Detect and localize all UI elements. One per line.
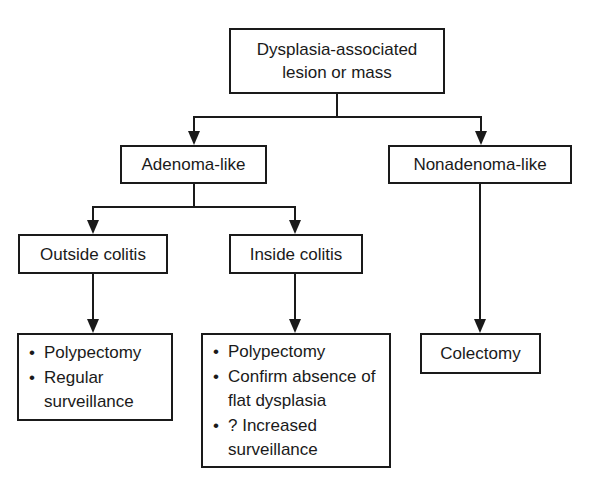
node-label-line2: lesion or mass — [282, 61, 392, 84]
node-outcome-outside-colitis: Polypectomy Regular surveillance — [17, 333, 173, 421]
node-dysplasia-associated-lesion: Dysplasia-associated lesion or mass — [229, 28, 445, 94]
node-label: Outside colitis — [40, 244, 146, 265]
node-label: Colectomy — [440, 343, 520, 364]
outcome-item: ? Increased surveillance — [213, 414, 348, 463]
outcome-item: Confirm absence of flat dysplasia — [213, 365, 388, 414]
outcome-list: Polypectomy Regular surveillance — [29, 341, 163, 415]
node-adenoma-like: Adenoma-like — [120, 145, 267, 184]
node-outside-colitis: Outside colitis — [18, 234, 168, 274]
node-nonadenoma-like: Nonadenoma-like — [388, 145, 572, 184]
flowchart: Dysplasia-associated lesion or mass Aden… — [0, 0, 597, 478]
node-label: Nonadenoma-like — [413, 154, 546, 175]
node-label-line1: Dysplasia-associated — [257, 38, 418, 61]
outcome-item: Regular surveillance — [29, 366, 154, 415]
node-label: Inside colitis — [250, 244, 343, 265]
node-outcome-inside-colitis: Polypectomy Confirm absence of flat dysp… — [201, 333, 391, 468]
node-inside-colitis: Inside colitis — [229, 234, 363, 274]
outcome-list: Polypectomy Confirm absence of flat dysp… — [213, 340, 381, 463]
node-colectomy: Colectomy — [420, 333, 541, 374]
node-label: Adenoma-like — [142, 154, 246, 175]
outcome-item: Polypectomy — [213, 340, 381, 365]
outcome-item: Polypectomy — [29, 341, 163, 366]
